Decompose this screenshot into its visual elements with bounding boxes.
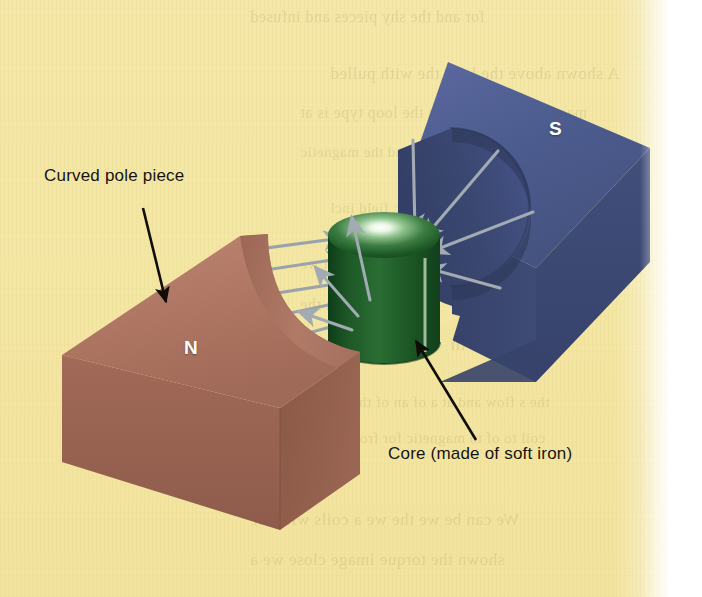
soft-iron-core	[328, 212, 440, 364]
magnet-illustration	[0, 0, 702, 597]
curved-pole-piece-arrow	[143, 208, 166, 302]
curved-pole-piece-label: Curved pole piece	[44, 166, 184, 186]
page-right-white-margin	[640, 0, 702, 597]
north-pole-piece	[62, 234, 360, 530]
figure-page: for and the shy pieces and infusedA show…	[0, 0, 702, 597]
core-label: Core (made of soft iron)	[388, 444, 572, 464]
